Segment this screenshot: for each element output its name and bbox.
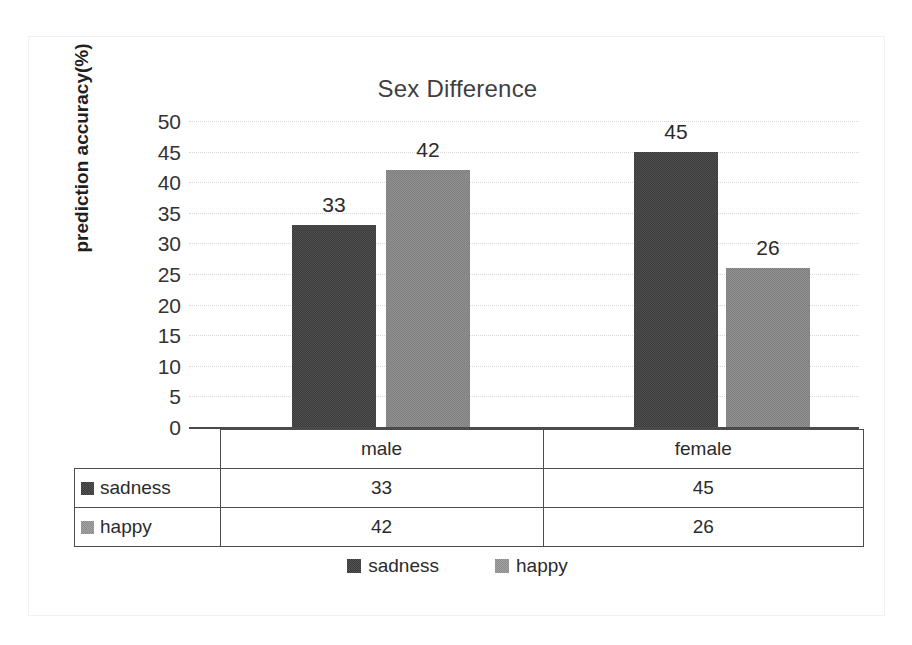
gridline xyxy=(189,213,859,214)
bar-female-sadness[interactable] xyxy=(634,152,718,427)
table-row: sadness 33 45 xyxy=(75,469,864,508)
y-tick-label: 25 xyxy=(158,264,181,285)
table-cell-sadness-female: 45 xyxy=(543,469,864,508)
bar-value-label: 42 xyxy=(416,138,439,162)
table-corner-cell xyxy=(75,430,221,469)
y-tick-label: 50 xyxy=(158,111,181,132)
table-row-label-text: sadness xyxy=(100,477,171,498)
table-row-label-sadness: sadness xyxy=(75,469,221,508)
legend-label: happy xyxy=(516,555,568,577)
table-cell-happy-male: 42 xyxy=(220,508,543,547)
table-header-female: female xyxy=(543,430,864,469)
legend-swatch-sadness-icon xyxy=(347,559,361,573)
bar-value-label: 33 xyxy=(322,193,345,217)
legend-item-happy[interactable]: happy xyxy=(495,555,568,577)
gridline xyxy=(189,152,859,153)
y-tick-label: 45 xyxy=(158,141,181,162)
table-header-male: male xyxy=(220,430,543,469)
y-tick-label: 40 xyxy=(158,172,181,193)
series-swatch-sadness-icon xyxy=(81,482,94,495)
chart-title: Sex Difference xyxy=(29,75,886,103)
bar-value-label: 26 xyxy=(756,236,779,260)
table-cell-sadness-male: 33 xyxy=(220,469,543,508)
table-row: happy 42 26 xyxy=(75,508,864,547)
legend-label: sadness xyxy=(368,555,439,577)
gridline xyxy=(189,182,859,183)
gridline xyxy=(189,121,859,122)
data-table: male female sadness 33 45 happy 42 26 xyxy=(74,429,864,547)
table-cell-happy-female: 26 xyxy=(543,508,864,547)
table-row-label-text: happy xyxy=(100,516,152,537)
y-tick-label: 30 xyxy=(158,233,181,254)
legend-item-sadness[interactable]: sadness xyxy=(347,555,439,577)
bar-male-happy[interactable] xyxy=(386,170,470,427)
bar-value-label: 45 xyxy=(664,120,687,144)
bar-female-happy[interactable] xyxy=(726,268,810,427)
y-tick-label: 15 xyxy=(158,325,181,346)
y-tick-label: 20 xyxy=(158,294,181,315)
gridlines: 33 42 45 26 xyxy=(189,121,859,427)
chart-container: Sex Difference prediction accuracy(%) 50… xyxy=(28,36,885,616)
y-axis-tick-labels: 50 45 40 35 30 25 20 15 10 5 0 xyxy=(119,121,181,427)
y-tick-label: 10 xyxy=(158,355,181,376)
series-swatch-happy-icon xyxy=(81,521,94,534)
y-tick-label: 5 xyxy=(169,386,181,407)
bar-male-sadness[interactable] xyxy=(292,225,376,427)
plot-area: 33 42 45 26 xyxy=(189,121,859,427)
y-tick-label: 35 xyxy=(158,202,181,223)
table-row-header: male female xyxy=(75,430,864,469)
legend-swatch-happy-icon xyxy=(495,559,509,573)
y-axis-title: prediction accuracy(%) xyxy=(71,33,93,263)
chart-legend: sadness happy xyxy=(29,555,886,577)
table-row-label-happy: happy xyxy=(75,508,221,547)
